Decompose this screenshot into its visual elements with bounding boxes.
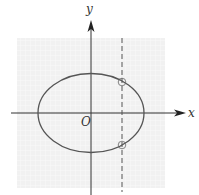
y-axis-label: y (85, 2, 93, 16)
origin-label: O (81, 115, 91, 129)
ellipse-diagram: y x O (0, 0, 199, 195)
diagram-canvas: y x O (0, 0, 199, 195)
x-axis-label: x (188, 106, 195, 120)
